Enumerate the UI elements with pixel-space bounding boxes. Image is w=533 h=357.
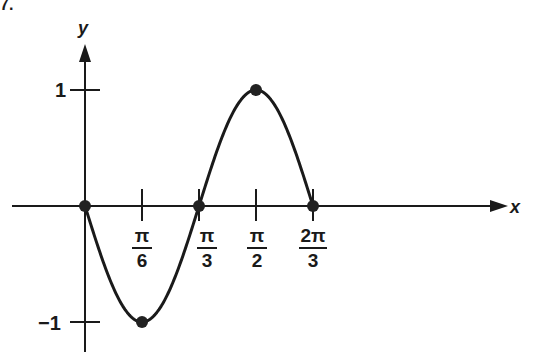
- numerator: π: [250, 226, 265, 246]
- data-point: [136, 316, 148, 328]
- x-tick-label-pi-6: π 6: [132, 226, 152, 271]
- x-axis-arrow-icon: [490, 200, 508, 212]
- fraction-bar: [247, 247, 267, 249]
- sine-plot: [0, 0, 533, 357]
- y-tick-label-1: 1: [55, 79, 66, 102]
- x-axis-label: x: [510, 197, 520, 218]
- numerator: 2π: [300, 226, 325, 246]
- y-axis-arrow-icon: [79, 44, 91, 62]
- numerator: π: [200, 226, 215, 246]
- data-point: [79, 200, 91, 212]
- data-point: [307, 200, 319, 212]
- x-tick-label-2pi-3: 2π 3: [299, 226, 327, 271]
- y-tick-label-neg1: −1: [38, 312, 61, 335]
- fraction-bar: [197, 247, 217, 249]
- data-point: [250, 84, 262, 96]
- denominator: 3: [308, 251, 319, 271]
- denominator: 6: [137, 251, 148, 271]
- fraction-bar: [299, 247, 327, 249]
- x-tick-label-pi-2: π 2: [247, 226, 267, 271]
- y-axis-label: y: [78, 18, 88, 39]
- x-tick-label-pi-3: π 3: [197, 226, 217, 271]
- fraction-bar: [132, 247, 152, 249]
- data-point: [193, 200, 205, 212]
- denominator: 3: [202, 251, 213, 271]
- denominator: 2: [252, 251, 263, 271]
- numerator: π: [135, 226, 150, 246]
